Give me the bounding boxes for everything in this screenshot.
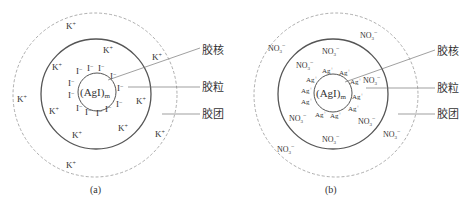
svg-text:K+: K+ (52, 62, 63, 72)
svg-text:Ag+: Ag+ (348, 104, 360, 113)
label-core-a: 胶核 (202, 43, 224, 57)
label-micelle-b: 胶团 (437, 107, 459, 121)
leader-core-b (345, 50, 435, 82)
svg-text:K+: K+ (136, 96, 147, 106)
svg-text:I−: I− (68, 78, 75, 88)
caption-b: (b) (325, 184, 337, 196)
svg-text:I−: I− (105, 104, 112, 114)
svg-text:K+: K+ (66, 21, 77, 31)
svg-text:I−: I− (85, 107, 92, 117)
svg-text:Ag+: Ag+ (352, 92, 364, 101)
svg-text:NO3−: NO3− (322, 133, 340, 145)
colloid-micelle-diagram: (AgI)m I− I− I− I− I− I− I− I− I− I− I− … (0, 0, 470, 205)
svg-text:K+: K+ (17, 94, 28, 104)
svg-text:Ag+: Ag+ (330, 111, 342, 120)
svg-text:K+: K+ (66, 160, 77, 170)
label-particle-a: 胶粒 (202, 80, 224, 94)
svg-text:K+: K+ (49, 106, 60, 116)
svg-text:NO3−: NO3− (383, 128, 401, 140)
svg-text:I−: I− (76, 66, 83, 76)
svg-text:K+: K+ (155, 129, 166, 139)
svg-text:K+: K+ (118, 123, 129, 133)
svg-text:NO3−: NO3− (268, 42, 286, 54)
svg-text:K+: K+ (72, 130, 83, 140)
svg-text:Ag+: Ag+ (301, 97, 313, 106)
label-particle-b: 胶粒 (437, 81, 459, 95)
svg-text:NO3−: NO3− (358, 115, 376, 127)
svg-text:I−: I− (116, 99, 123, 109)
panel-b: (AgI)m Ag+ Ag+ Ag+ Ag+ Ag+ Ag+ Ag+ Ag+ A… (254, 13, 459, 196)
svg-text:NO3−: NO3− (363, 74, 381, 86)
svg-text:NO3−: NO3− (296, 59, 314, 71)
label-micelle-a: 胶团 (202, 107, 224, 121)
svg-text:I−: I− (87, 63, 94, 73)
svg-text:K+: K+ (103, 45, 114, 55)
svg-text:I−: I− (110, 71, 117, 81)
svg-text:I−: I− (76, 103, 83, 113)
svg-text:I−: I− (117, 83, 124, 93)
svg-text:I−: I− (98, 63, 105, 73)
label-core-b: 胶核 (437, 44, 459, 58)
svg-text:NO3−: NO3− (322, 45, 340, 57)
core-label-a: (AgI)m (80, 86, 110, 100)
svg-text:Ag+: Ag+ (315, 110, 327, 119)
svg-text:Ag+: Ag+ (301, 86, 313, 95)
svg-text:Ag+: Ag+ (339, 68, 351, 77)
core-label-b: (AgI)m (316, 87, 346, 101)
caption-a: (a) (90, 184, 101, 196)
svg-text:NO3−: NO3− (360, 29, 378, 41)
svg-text:I−: I− (96, 108, 103, 118)
svg-text:NO3−: NO3− (289, 112, 307, 124)
panel-a: (AgI)m I− I− I− I− I− I− I− I− I− I− I− … (13, 13, 224, 196)
svg-text:NO3−: NO3− (277, 143, 295, 155)
svg-text:Ag+: Ag+ (306, 75, 318, 84)
svg-text:K+: K+ (152, 52, 163, 62)
svg-text:I−: I− (68, 90, 75, 100)
